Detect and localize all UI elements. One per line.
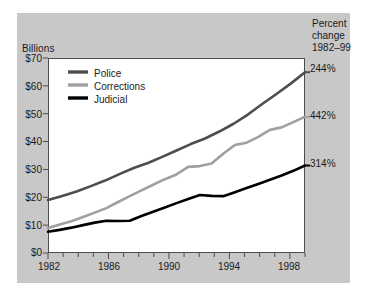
y-axis-ticks <box>43 58 48 253</box>
percent-connectors <box>305 72 310 165</box>
legend-swatches <box>68 72 88 98</box>
chart-figure: Billions $70 $60 $50 $40 $30 $20 $10 $0 … <box>0 0 367 296</box>
chart-graphics <box>0 0 367 296</box>
series-lines <box>48 72 305 232</box>
x-axis-ticks <box>48 253 305 259</box>
